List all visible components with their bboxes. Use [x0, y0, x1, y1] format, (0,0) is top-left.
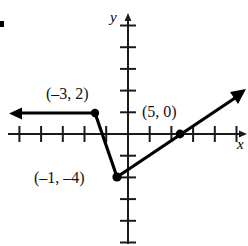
point-marker-neg3-2 — [91, 109, 99, 117]
x-axis-label: x — [237, 137, 244, 152]
point-label-neg1-neg4: (–1, –4) — [34, 170, 85, 186]
arrowhead-left — [9, 108, 22, 120]
coordinate-plane-svg — [0, 0, 248, 246]
arrowhead-right — [230, 89, 246, 104]
graph-figure: (–3, 2) (5, 0) (–1, –4) y x — [0, 0, 248, 246]
segment-descending — [95, 113, 117, 177]
y-axis — [120, 13, 136, 244]
y-axis-label: y — [110, 10, 117, 25]
point-label-neg3-2: (–3, 2) — [46, 86, 89, 102]
point-marker-5-0 — [176, 130, 185, 139]
point-label-5-0: (5, 0) — [142, 104, 177, 120]
point-marker-neg1-neg4 — [112, 172, 121, 181]
